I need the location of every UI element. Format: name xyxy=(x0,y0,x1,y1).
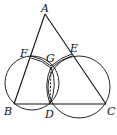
label-g: G xyxy=(46,52,55,65)
label-c: C xyxy=(107,105,116,118)
geometry-figure: A B C D E F G xyxy=(0,0,117,135)
label-e: E xyxy=(69,42,78,55)
label-b: B xyxy=(3,105,12,118)
label-f: F xyxy=(19,47,28,60)
label-a: A xyxy=(40,2,49,15)
label-d: D xyxy=(44,108,54,121)
segment-gd-dashed xyxy=(50,68,51,103)
circle-right xyxy=(48,56,110,118)
